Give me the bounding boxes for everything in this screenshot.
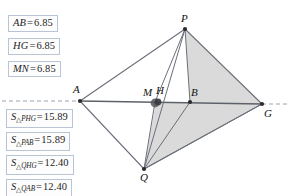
area-subscript-phg: PHG [21, 115, 35, 123]
measurement-mn-equals: = [29, 63, 37, 74]
area-measurements-panel: S△PHG=15.89 S△PAB=15.89 S△QHG=12.40 S△QA… [6, 109, 74, 196]
vertex-label-a: A [73, 84, 80, 95]
measurement-hg[interactable]: HG=6.85 [8, 38, 60, 55]
sketch-canvas: P A G Q M H B AB=6.85 HG=6.85 MN=6.85 S△… [0, 0, 291, 196]
vertex-label-q: Q [140, 172, 148, 183]
area-subscript-qhg: QHG [21, 162, 36, 170]
area-subscript-qab: QAB [21, 185, 35, 193]
measurement-ab-equals: = [26, 17, 34, 28]
vertex-label-h: H [156, 85, 164, 96]
point-g[interactable] [260, 102, 264, 106]
vertex-label-p: P [181, 13, 188, 24]
measurement-hg-label: HG [13, 40, 28, 51]
area-value-qab: 12.40 [43, 181, 67, 192]
area-equals-qab: = [35, 181, 43, 192]
area-value-qhg: 12.40 [45, 157, 69, 168]
point-p[interactable] [183, 27, 187, 31]
area-value-pab: 15.89 [41, 134, 65, 145]
measurement-area-qhg[interactable]: S△QHG=12.40 [6, 155, 74, 174]
measurement-hg-value: 6.85 [36, 40, 55, 51]
measurement-mn[interactable]: MN=6.85 [8, 61, 61, 78]
vertex-label-g: G [264, 108, 272, 119]
point-h[interactable] [155, 99, 162, 106]
measurement-ab-label: AB [13, 17, 26, 28]
measurement-mn-value: 6.85 [37, 63, 56, 74]
area-subscript-pab: PAB [21, 139, 33, 147]
point-b[interactable] [188, 100, 192, 104]
area-equals-phg: = [36, 111, 44, 122]
area-equals-qhg: = [37, 157, 45, 168]
point-a[interactable] [78, 99, 82, 103]
measurement-ab-value: 6.85 [34, 17, 53, 28]
measurement-mn-label: MN [13, 63, 29, 74]
vertex-label-b: B [191, 87, 198, 98]
measurement-area-pab[interactable]: S△PAB=15.89 [6, 132, 70, 151]
area-value-phg: 15.89 [44, 111, 68, 122]
measurement-area-qab[interactable]: S△QAB=12.40 [6, 179, 72, 196]
measurement-area-phg[interactable]: S△PHG=15.89 [6, 109, 73, 128]
vertex-label-m: M [143, 87, 152, 98]
measurement-ab[interactable]: AB=6.85 [8, 15, 58, 32]
length-measurements-panel: AB=6.85 HG=6.85 MN=6.85 [8, 15, 61, 77]
